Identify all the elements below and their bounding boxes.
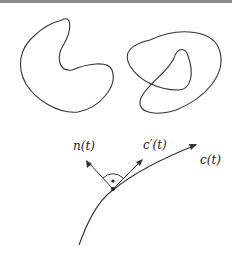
base-point [111, 187, 115, 191]
simple-closed-curve [20, 19, 113, 112]
normal-arrowhead [86, 160, 92, 168]
right-angle-arc [103, 174, 123, 178]
curve-label: c(t) [200, 153, 221, 167]
tangent-label: c′(t) [143, 138, 167, 152]
normal-label: n(t) [73, 139, 95, 153]
curve-arrowhead [189, 144, 197, 150]
self-intersecting-closed-curve [127, 32, 221, 113]
right-angle-dot [111, 179, 114, 182]
diagram-canvas [0, 0, 232, 254]
curve-c [79, 145, 196, 245]
